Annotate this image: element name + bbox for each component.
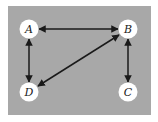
node-b-label: B	[123, 23, 132, 36]
node-d: D	[20, 83, 39, 102]
node-d-label: D	[24, 86, 34, 99]
node-c-label: C	[124, 86, 133, 99]
node-c: C	[119, 83, 138, 102]
graph-diagram: A B C D	[0, 0, 158, 122]
node-b: B	[119, 20, 138, 39]
node-a-label: A	[24, 23, 33, 36]
node-a: A	[20, 20, 39, 39]
